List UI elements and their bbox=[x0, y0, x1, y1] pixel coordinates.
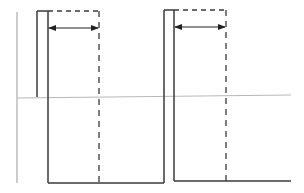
horizontal-baseline bbox=[17, 95, 291, 98]
threshold-line bbox=[17, 95, 291, 98]
bottom-segments bbox=[48, 181, 291, 183]
pulse-waveform-diagram bbox=[0, 0, 304, 193]
